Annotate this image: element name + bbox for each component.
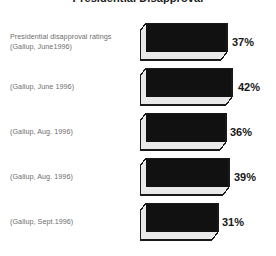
row-label: (Gallup, Sept.1996) <box>10 217 136 227</box>
bar-shape <box>140 203 219 241</box>
row-label: (Gallup, Aug. 1996) <box>10 172 136 182</box>
row-label: (Gallup, Aug. 1996) <box>10 127 136 137</box>
row-label-line: Presidential disapproval ratings <box>10 32 136 42</box>
bar-3d-42 <box>140 68 233 106</box>
chart-row: (Gallup, Aug. 1996) 39% <box>0 154 276 199</box>
bar-shape <box>140 23 228 61</box>
row-label: Presidential disapproval ratings (Gallup… <box>10 32 136 52</box>
row-label-line: (Gallup, Aug. 1996) <box>10 127 136 137</box>
bar-value-label: 31% <box>222 216 244 228</box>
presidential-disapproval-chart: Presidential Disapproval Presidential di… <box>0 0 276 256</box>
row-label-line: (Gallup, June1996) <box>10 42 136 52</box>
chart-title: Presidential Disapproval <box>0 0 276 4</box>
bar-3d-39 <box>140 158 230 196</box>
bar-value-label: 39% <box>234 171 256 183</box>
bar-3d-37 <box>140 23 228 61</box>
row-label-line: (Gallup, Aug. 1996) <box>10 172 136 182</box>
bar-value-label: 42% <box>238 81 260 93</box>
chart-row: (Gallup, Aug. 1996) 36% <box>0 109 276 154</box>
bar-value-label: 36% <box>230 126 252 138</box>
bar-3d-36 <box>140 113 227 151</box>
chart-row: (Gallup, June 1996) 42% <box>0 64 276 109</box>
row-label-line: (Gallup, Sept.1996) <box>10 217 136 227</box>
row-label: (Gallup, June 1996) <box>10 82 136 92</box>
bar-3d-31 <box>140 203 219 241</box>
chart-row: (Gallup, Sept.1996) 31% <box>0 199 276 244</box>
bar-shape <box>140 158 230 196</box>
bar-shape <box>140 68 233 106</box>
bar-value-label: 37% <box>232 36 254 48</box>
bar-shape <box>140 113 227 151</box>
row-label-line: (Gallup, June 1996) <box>10 82 136 92</box>
chart-row: Presidential disapproval ratings (Gallup… <box>0 19 276 64</box>
